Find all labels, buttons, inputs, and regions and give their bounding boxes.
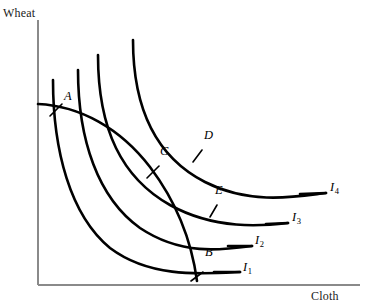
curve-label-leaders-group bbox=[214, 193, 326, 272]
y-axis-label: Wheat bbox=[3, 6, 35, 21]
tick-point-e bbox=[210, 205, 217, 217]
indifference-curves-group bbox=[53, 40, 326, 273]
leader-i3 bbox=[266, 223, 288, 224]
curve-label-i4-sub: 4 bbox=[335, 186, 339, 196]
point-label-c: C bbox=[160, 144, 168, 159]
curve-label-i3: I3 bbox=[292, 210, 300, 225]
point-label-a: A bbox=[64, 89, 72, 104]
curve-i4 bbox=[133, 40, 326, 198]
leader-i4 bbox=[300, 193, 326, 194]
curve-label-i3-sub: 3 bbox=[297, 216, 301, 226]
point-label-e: E bbox=[215, 183, 223, 198]
curve-label-i2: I2 bbox=[255, 233, 263, 248]
indifference-curve-figure: Wheat Cloth A B C D E I1 I2 I3 I4 bbox=[0, 0, 369, 308]
curve-label-i2-base: I bbox=[255, 233, 259, 247]
curve-label-i4: I4 bbox=[330, 180, 338, 195]
curve-label-i1: I1 bbox=[243, 260, 251, 275]
x-axis-label: Cloth bbox=[311, 289, 339, 304]
curve-label-i3-base: I bbox=[292, 210, 296, 224]
curve-label-i1-sub: 1 bbox=[248, 266, 252, 276]
tick-point-d bbox=[193, 150, 202, 162]
point-label-b: B bbox=[205, 245, 213, 260]
curve-label-i2-sub: 2 bbox=[260, 239, 264, 249]
figure-canvas bbox=[0, 0, 369, 308]
point-label-d: D bbox=[204, 128, 213, 143]
axes-group bbox=[38, 20, 360, 285]
curve-label-i4-base: I bbox=[330, 180, 334, 194]
curve-label-i1-base: I bbox=[243, 260, 247, 274]
